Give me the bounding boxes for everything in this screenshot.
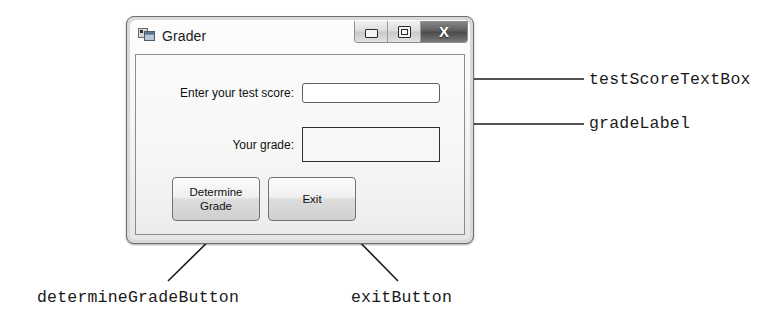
maximize-icon bbox=[398, 26, 411, 38]
window-controls: X bbox=[354, 21, 468, 43]
callout-determine-grade-button: determineGradeButton bbox=[37, 288, 239, 307]
window-inner: Grader X Enter your test score: bbox=[130, 20, 470, 240]
grade-row: Your grade: bbox=[150, 127, 440, 162]
test-score-row: Enter your test score: bbox=[150, 83, 440, 103]
determine-grade-button-label: Determine Grade bbox=[189, 185, 242, 214]
close-icon: X bbox=[439, 24, 449, 39]
callout-test-score-textbox: testScoreTextBox bbox=[589, 70, 751, 89]
client-panel: Enter your test score: Your grade: Deter… bbox=[135, 54, 465, 235]
grade-output-label bbox=[302, 127, 440, 162]
minimize-button[interactable] bbox=[355, 21, 388, 42]
test-score-label: Enter your test score: bbox=[180, 86, 294, 100]
figure-container: Grader X Enter your test score: bbox=[0, 0, 771, 330]
close-button[interactable]: X bbox=[421, 21, 467, 42]
determine-grade-button[interactable]: Determine Grade bbox=[172, 177, 260, 221]
determine-label-line2: Grade bbox=[200, 200, 232, 212]
determine-label-line1: Determine bbox=[189, 186, 242, 198]
window-title: Grader bbox=[162, 28, 206, 44]
test-score-input[interactable] bbox=[302, 83, 440, 103]
grade-caption-label: Your grade: bbox=[232, 138, 294, 152]
vb-form-icon bbox=[138, 28, 155, 44]
callout-grade-label: gradeLabel bbox=[589, 114, 690, 133]
title-bar[interactable]: Grader X bbox=[130, 20, 470, 52]
grader-window: Grader X Enter your test score: bbox=[126, 16, 474, 244]
exit-button-label: Exit bbox=[302, 192, 321, 206]
maximize-button[interactable] bbox=[388, 21, 421, 42]
minimize-icon bbox=[365, 29, 378, 38]
exit-button[interactable]: Exit bbox=[268, 177, 356, 221]
callout-exit-button: exitButton bbox=[351, 288, 452, 307]
